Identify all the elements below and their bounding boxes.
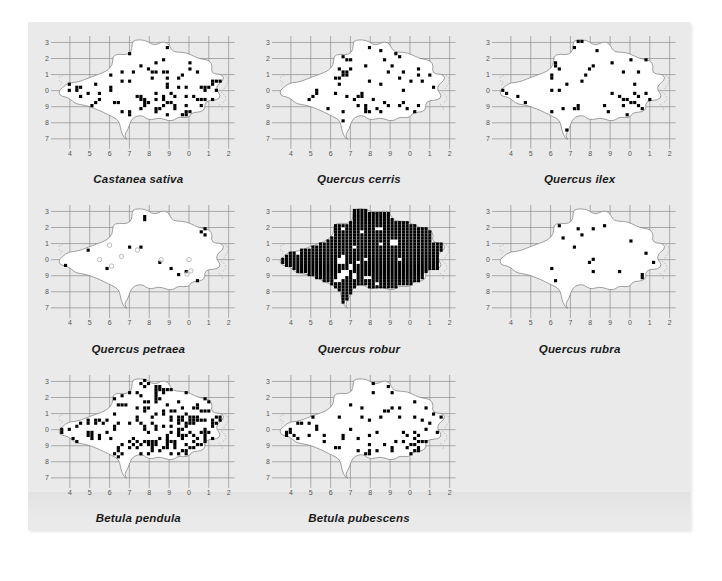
- record-dot: [188, 421, 191, 424]
- record-dot: [398, 267, 401, 270]
- record-dot: [383, 443, 386, 446]
- record-dot: [401, 440, 404, 443]
- record-dot: [386, 231, 389, 234]
- record-dot: [379, 252, 382, 255]
- record-dot: [307, 273, 310, 276]
- record-dot: [356, 243, 359, 246]
- record-dot: [192, 415, 195, 418]
- record-dot: [435, 267, 438, 270]
- record-dot: [151, 449, 154, 452]
- record-dot: [626, 113, 629, 116]
- record-dot: [371, 249, 374, 252]
- x-tick-label: 8: [589, 320, 593, 327]
- record-dot: [352, 283, 355, 286]
- record-dot: [196, 443, 199, 446]
- record-dot: [322, 279, 325, 282]
- x-tick-label: 0: [628, 150, 632, 157]
- x-tick-label: 9: [608, 150, 612, 157]
- record-dot: [435, 255, 438, 258]
- record-dot: [337, 252, 340, 255]
- record-dot: [417, 255, 420, 258]
- record-dot: [417, 440, 420, 443]
- record-dot: [162, 446, 165, 449]
- record-dot: [181, 406, 184, 409]
- record-dot: [420, 273, 423, 276]
- record-dot: [371, 237, 374, 240]
- record-dot: [113, 424, 116, 427]
- record-dot: [334, 92, 337, 95]
- record-dot: [337, 286, 340, 289]
- record-dot: [417, 243, 420, 246]
- record-dot: [315, 92, 318, 95]
- record-dot: [341, 283, 344, 286]
- record-dot: [177, 427, 180, 430]
- record-dot: [383, 237, 386, 240]
- record-dot: [349, 224, 352, 227]
- record-dot: [630, 58, 633, 61]
- record-dot: [417, 249, 420, 252]
- record-dot: [139, 98, 142, 101]
- record-dot: [139, 64, 142, 67]
- y-tick-label: 1: [486, 241, 490, 248]
- x-tick-label: 6: [328, 320, 332, 327]
- record-dot: [147, 67, 150, 70]
- record-dot: [151, 446, 154, 449]
- record-dot: [405, 273, 408, 276]
- record-dot: [185, 434, 188, 437]
- record-dot: [154, 443, 157, 446]
- record-dot: [303, 267, 306, 270]
- record-dot: [360, 249, 363, 252]
- record-dot: [618, 270, 621, 273]
- record-dot: [364, 237, 367, 240]
- record-dot: [364, 243, 367, 246]
- record-dot: [311, 249, 314, 252]
- record-dot: [417, 264, 420, 267]
- record-dot: [383, 261, 386, 264]
- record-dot: [207, 430, 210, 433]
- record-dot: [401, 276, 404, 279]
- y-tick-label: 1: [266, 71, 270, 78]
- record-dot: [356, 449, 359, 452]
- record-dot: [185, 449, 188, 452]
- record-dot: [439, 415, 442, 418]
- record-dot: [394, 237, 397, 240]
- record-dot: [207, 400, 210, 403]
- record-dot: [596, 49, 599, 52]
- record-dot: [211, 98, 214, 101]
- record-dot: [413, 449, 416, 452]
- record-dot: [371, 264, 374, 267]
- record-dot: [143, 101, 146, 104]
- record-dot: [136, 446, 139, 449]
- y-tick-label: 7: [45, 135, 49, 142]
- record-dot: [364, 228, 367, 231]
- record-dot: [375, 243, 378, 246]
- study-area-outline: [501, 209, 665, 308]
- record-dot: [424, 261, 427, 264]
- record-dot: [383, 58, 386, 61]
- record-dot: [401, 249, 404, 252]
- offshore-boundary-2: [660, 104, 664, 110]
- record-dot: [588, 67, 591, 70]
- record-dot: [285, 258, 288, 261]
- record-dot: [428, 255, 431, 258]
- record-dot: [117, 403, 120, 406]
- x-tick-label: 1: [207, 320, 211, 327]
- record-dot: [98, 437, 101, 440]
- record-dot: [603, 104, 606, 107]
- record-dot: [121, 394, 124, 397]
- record-dot: [147, 430, 150, 433]
- record-dot: [424, 228, 427, 231]
- record-dot: [326, 270, 329, 273]
- record-dot: [368, 443, 371, 446]
- record-dot: [311, 261, 314, 264]
- panel-quercus-petraea-plot: 4567890123210987: [28, 191, 249, 360]
- record-dot: [143, 440, 146, 443]
- record-dot: [424, 406, 427, 409]
- record-dot: [177, 86, 180, 89]
- record-dot: [424, 237, 427, 240]
- record-dot: [386, 212, 389, 215]
- offshore-boundary-1: [221, 431, 226, 442]
- record-dot: [420, 228, 423, 231]
- record-dot: [154, 107, 157, 110]
- record-dot: [398, 237, 401, 240]
